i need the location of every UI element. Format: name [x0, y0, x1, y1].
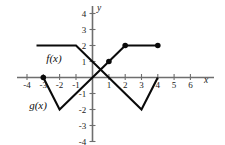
- x-tick-label--2: -2: [56, 80, 64, 90]
- curve-label-f: f(x): [46, 52, 62, 65]
- x-tick-label--4: -4: [23, 80, 31, 90]
- x-axis-label: x: [203, 75, 209, 85]
- y-tick-label-4: 4: [82, 9, 87, 19]
- y-tick-label--2: -2: [79, 105, 87, 115]
- endpoint-dot-g-1-1: [106, 59, 112, 65]
- y-tick-label--4: -4: [79, 137, 87, 145]
- x-tick-label-1: 1: [107, 80, 112, 90]
- x-tick-label-3: 3: [139, 80, 144, 90]
- y-axis-label: y: [96, 3, 102, 13]
- x-tick-label-5: 5: [172, 80, 177, 90]
- axis-group: [17, 6, 214, 142]
- endpoint-dot-g-2-2: [122, 43, 128, 49]
- endpoint-dot-g-neg3-0: [41, 75, 47, 81]
- x-tick-label-2: 2: [123, 80, 128, 90]
- function-graph-figure: -4 -3 -2 -1 1 2 3 4 5 6 4 3 2 1 -1 -2 -3…: [0, 0, 225, 145]
- y-tick-label-2: 2: [82, 41, 87, 51]
- y-tick-label-3: 3: [82, 25, 87, 35]
- x-tick-label-6: 6: [188, 80, 193, 90]
- curve-label-g: g(x): [29, 99, 47, 112]
- y-tick-label-1: 1: [82, 57, 87, 67]
- endpoint-dot-g-4-2: [155, 43, 161, 49]
- plot-area: -4 -3 -2 -1 1 2 3 4 5 6 4 3 2 1 -1 -2 -3…: [0, 0, 225, 145]
- y-tick-label--3: -3: [79, 121, 87, 131]
